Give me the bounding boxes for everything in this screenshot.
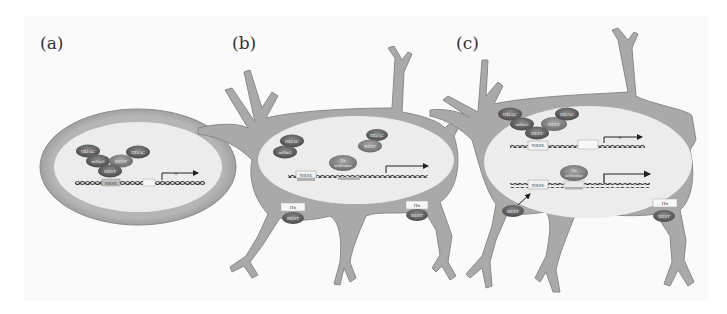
svg-text:activator: activator bbox=[565, 173, 583, 178]
nrse-label-c2: NRSE bbox=[532, 183, 545, 188]
protein-rest: REST bbox=[98, 165, 122, 178]
svg-text:HDAC: HDAC bbox=[560, 112, 575, 117]
svg-text:HDAC: HDAC bbox=[370, 133, 385, 138]
protein-hdac: HDAC bbox=[126, 146, 150, 159]
nrse-label-a: NRSE bbox=[105, 181, 118, 186]
protein-hdac: HDAC bbox=[366, 129, 388, 141]
htt-label: Htt bbox=[290, 205, 297, 210]
nrse-label-c1: NRSE bbox=[532, 143, 545, 148]
svg-text:mSin3: mSin3 bbox=[278, 150, 292, 155]
svg-text:mSin3: mSin3 bbox=[515, 122, 529, 127]
rest-label: REST bbox=[411, 213, 423, 218]
svg-text:HDAC: HDAC bbox=[285, 139, 300, 144]
protein-rest: REST bbox=[358, 140, 382, 153]
protein-tx-activator: Tx activator bbox=[560, 165, 588, 181]
rest-label: REST bbox=[287, 216, 299, 221]
svg-text:HDAC: HDAC bbox=[503, 112, 518, 117]
svg-text:REST: REST bbox=[115, 159, 127, 164]
protein-tx-activator: Tx activator bbox=[329, 155, 357, 171]
rest-label: REST bbox=[507, 209, 519, 214]
diagram-canvas: NRSE × HDAC mSin3 REST HDAC REST bbox=[0, 0, 727, 314]
svg-text:mSin3: mSin3 bbox=[91, 159, 105, 164]
svg-text:REST: REST bbox=[364, 144, 376, 149]
svg-text:REST: REST bbox=[548, 122, 560, 127]
svg-text:HDAC: HDAC bbox=[131, 150, 146, 155]
protein-rest: REST bbox=[525, 127, 549, 140]
svg-text:REST: REST bbox=[104, 169, 116, 174]
nrse-label-b: NRSE bbox=[300, 173, 313, 178]
blocked-mark-a: × bbox=[174, 170, 178, 178]
svg-text:Tx: Tx bbox=[340, 158, 346, 163]
svg-text:Tx: Tx bbox=[571, 168, 577, 173]
svg-text:HDAC: HDAC bbox=[81, 149, 96, 154]
rest-label: REST bbox=[658, 214, 670, 219]
panel-c-neuron bbox=[430, 28, 696, 292]
htt-label: Htt bbox=[414, 203, 421, 208]
protein-hdac: HDAC bbox=[555, 108, 579, 121]
svg-text:activator: activator bbox=[334, 163, 352, 168]
htt-label: Htt bbox=[662, 201, 669, 206]
protein-msin3: mSin3 bbox=[273, 146, 297, 159]
blocked-mark-c: × bbox=[618, 134, 622, 142]
svg-text:REST: REST bbox=[531, 131, 543, 136]
